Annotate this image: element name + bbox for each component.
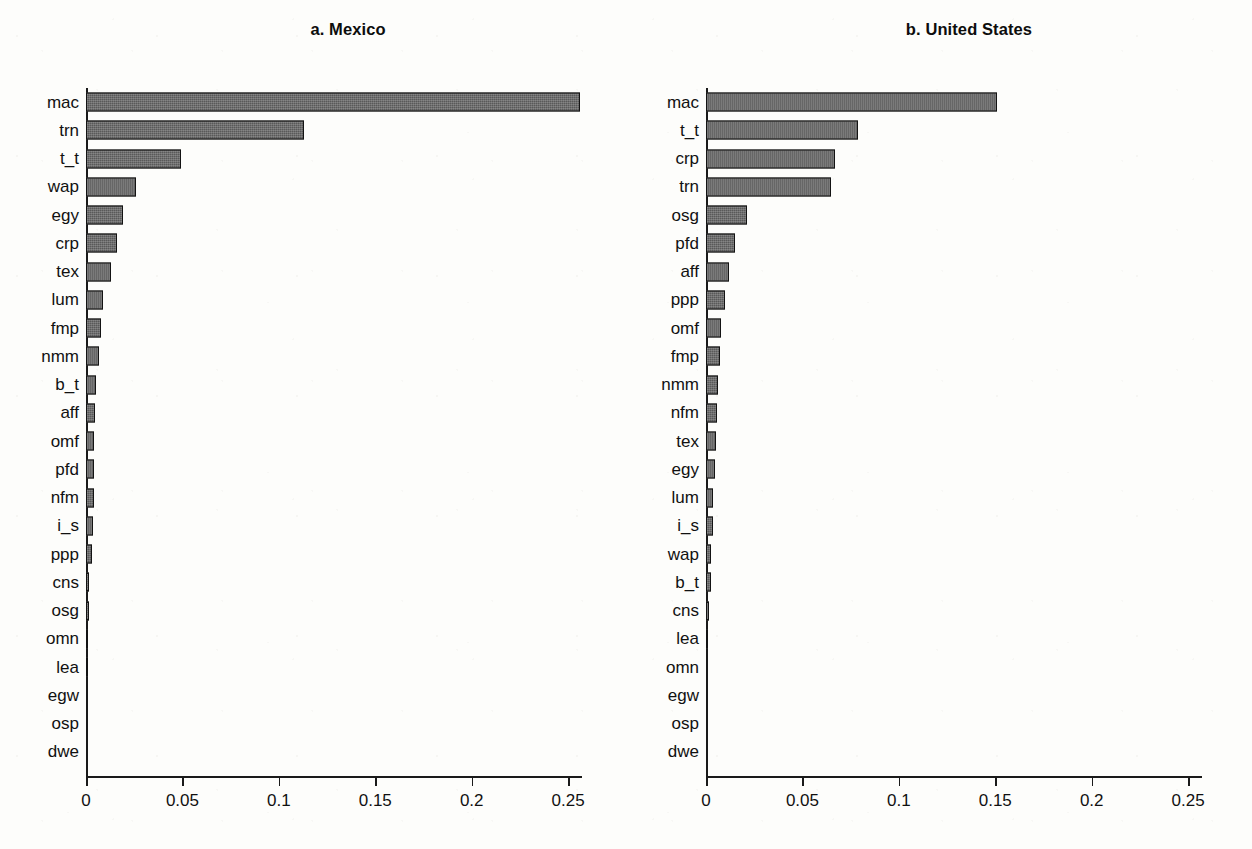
- category-label-pfd: pfd: [55, 461, 79, 478]
- chart-title-united-states: b. United States: [656, 20, 1252, 39]
- bar-aff: [86, 403, 95, 422]
- bar-fmp: [86, 319, 101, 338]
- category-label-t_t: t_t: [680, 122, 699, 139]
- category-label-omn: omn: [666, 659, 699, 676]
- bar-row: pfd: [706, 229, 1246, 257]
- category-label-mac: mac: [47, 94, 79, 111]
- category-label-aff: aff: [680, 263, 699, 280]
- x-tick-mark: [1092, 778, 1094, 786]
- bar-row: dwe: [706, 738, 1246, 766]
- bar-lum: [86, 290, 103, 309]
- bar-row: cns: [706, 597, 1246, 625]
- bar-row: egy: [706, 455, 1246, 483]
- category-label-i_s: i_s: [57, 517, 79, 534]
- bar-wap: [706, 545, 711, 564]
- category-label-b_t: b_t: [675, 574, 699, 591]
- bar-row: t_t: [706, 116, 1246, 144]
- bar-b_t: [706, 573, 711, 592]
- category-label-ppp: ppp: [671, 291, 699, 308]
- category-label-nfm: nfm: [51, 489, 79, 506]
- bar-osg: [706, 206, 747, 225]
- x-tick-mark: [1188, 778, 1190, 786]
- chart-panel-mexico: a. Mexico mactrnt_twapegycrptexlumfmpnmm…: [0, 0, 626, 849]
- bar-row: omf: [706, 314, 1246, 342]
- bar-egy: [86, 206, 123, 225]
- bar-i_s: [706, 516, 713, 535]
- bar-aff: [706, 262, 729, 281]
- bar-fmp: [706, 347, 720, 366]
- bar-nmm: [706, 375, 718, 394]
- bar-row: nfm: [86, 484, 626, 512]
- bar-row: i_s: [706, 512, 1246, 540]
- bar-row: omn: [706, 653, 1246, 681]
- bar-row: aff: [706, 258, 1246, 286]
- x-tick-mark: [279, 778, 281, 786]
- category-label-trn: trn: [679, 178, 699, 195]
- x-tick-mark: [568, 778, 570, 786]
- bar-row: i_s: [86, 512, 626, 540]
- bar-lum: [706, 488, 713, 507]
- bar-row: trn: [86, 116, 626, 144]
- bar-row: omf: [86, 427, 626, 455]
- bar-row: lea: [706, 625, 1246, 653]
- x-tick-label: 0.1: [267, 791, 291, 811]
- bar-row: tex: [706, 427, 1246, 455]
- category-label-egy: egy: [52, 207, 79, 224]
- x-tick-mark: [995, 778, 997, 786]
- bar-ppp: [706, 290, 725, 309]
- category-label-nmm: nmm: [661, 376, 699, 393]
- category-label-tex: tex: [676, 433, 699, 450]
- bar-row: ppp: [86, 540, 626, 568]
- bar-nfm: [86, 488, 94, 507]
- bar-row: egw: [86, 681, 626, 709]
- bar-row: ppp: [706, 286, 1246, 314]
- bar-trn: [706, 177, 831, 196]
- bar-row: egw: [706, 681, 1246, 709]
- category-label-egw: egw: [668, 687, 699, 704]
- bar-row: mac: [706, 88, 1246, 116]
- bar-row: trn: [706, 173, 1246, 201]
- bar-row: lum: [706, 484, 1246, 512]
- category-label-omn: omn: [46, 630, 79, 647]
- x-tick-mark: [472, 778, 474, 786]
- x-tick-label: 0: [701, 791, 710, 811]
- x-tick-label: 0.25: [1172, 791, 1205, 811]
- bar-crp: [86, 234, 117, 253]
- bar-lea: [706, 629, 708, 648]
- category-label-lea: lea: [676, 630, 699, 647]
- x-tick-mark: [182, 778, 184, 786]
- bar-i_s: [86, 516, 93, 535]
- bar-row: mac: [86, 88, 626, 116]
- bar-row: fmp: [86, 314, 626, 342]
- x-axis-line-mexico: [86, 776, 582, 778]
- plot-area-mexico: mactrnt_twapegycrptexlumfmpnmmb_taffomfp…: [86, 88, 626, 778]
- category-label-lum: lum: [672, 489, 699, 506]
- x-tick-mark: [86, 778, 88, 786]
- bar-row: wap: [706, 540, 1246, 568]
- bar-tex: [706, 432, 716, 451]
- category-label-lea: lea: [56, 659, 79, 676]
- bar-pfd: [86, 460, 94, 479]
- bar-trn: [86, 121, 304, 140]
- bar-row: pfd: [86, 455, 626, 483]
- category-label-tex: tex: [56, 263, 79, 280]
- x-axis-line-united-states: [706, 776, 1202, 778]
- bar-row: crp: [706, 145, 1246, 173]
- bar-t_t: [706, 121, 858, 140]
- bar-lea: [86, 658, 88, 677]
- bar-row: t_t: [86, 145, 626, 173]
- bar-mac: [86, 93, 580, 112]
- x-tick-mark: [706, 778, 708, 786]
- category-label-cns: cns: [53, 574, 79, 591]
- bar-row: fmp: [706, 342, 1246, 370]
- category-label-trn: trn: [59, 122, 79, 139]
- bar-row: wap: [86, 173, 626, 201]
- bar-pfd: [706, 234, 735, 253]
- bar-row: nfm: [706, 399, 1246, 427]
- bar-row: osp: [706, 710, 1246, 738]
- x-tick-label: 0.25: [552, 791, 585, 811]
- x-tick-label: 0.15: [979, 791, 1012, 811]
- category-label-lum: lum: [52, 291, 79, 308]
- category-label-pfd: pfd: [675, 235, 699, 252]
- bar-row: tex: [86, 258, 626, 286]
